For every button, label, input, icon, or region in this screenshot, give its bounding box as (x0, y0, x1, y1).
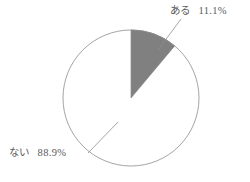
pie-label-aru: ある11.1% (170, 4, 227, 17)
pie-label-aru-value: 11.1% (199, 4, 227, 17)
pie-label-nai-name: ない (9, 146, 30, 159)
pie-chart: ある11.1% ない88.9% (0, 0, 250, 182)
pie-label-nai-value: 88.9% (38, 146, 67, 159)
pie-label-aru-name: ある (170, 4, 191, 17)
pie-label-nai: ない88.9% (9, 146, 66, 159)
